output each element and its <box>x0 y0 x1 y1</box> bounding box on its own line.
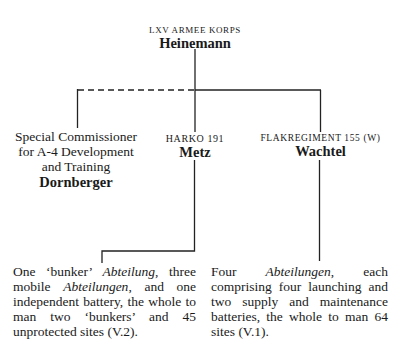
desc-italic: Abteilung <box>103 264 156 279</box>
description-metz: One ‘bunker’ Abteilung, three mobile Abt… <box>13 264 196 339</box>
description-wachtel: Four Abteilungen, each comprising four l… <box>211 264 388 339</box>
node-name: Dornberger <box>0 174 152 190</box>
node-name: Heinemann <box>130 35 260 52</box>
node-title: LXV Armee Korps <box>130 25 260 35</box>
desc-text: Four <box>211 264 266 279</box>
node-title-line: and Training <box>0 159 152 174</box>
node-harko-191: Harko 191 Metz <box>150 133 240 161</box>
node-lxv-armee-korps: LXV Armee Korps Heinemann <box>130 25 260 52</box>
desc-italic: Abteilungen <box>63 279 128 294</box>
node-title-line: Special Commissioner <box>0 129 152 144</box>
node-name: Metz <box>150 144 240 161</box>
node-title: Flakregiment 155 (W) <box>248 133 393 143</box>
desc-text: One ‘bunker’ <box>13 264 103 279</box>
node-title-line: for A-4 Development <box>0 144 152 159</box>
node-name: Wachtel <box>248 143 393 160</box>
node-title: Harko 191 <box>150 133 240 144</box>
desc-italic: Abteilungen <box>266 264 331 279</box>
node-flakregiment-155: Flakregiment 155 (W) Wachtel <box>248 133 393 160</box>
node-special-commissioner: Special Commissioner for A-4 Development… <box>0 129 152 190</box>
